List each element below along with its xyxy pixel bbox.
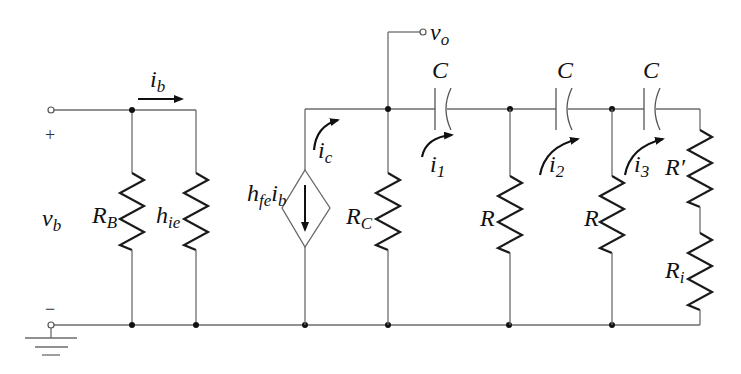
label-rb: RB (92, 203, 117, 231)
label-vb: vb (42, 206, 61, 234)
label-ic: ic (318, 138, 332, 166)
minus-sign: − (45, 300, 55, 318)
label-r1: R (480, 206, 495, 230)
resistor-hie (184, 173, 208, 250)
plus-sign: + (45, 126, 55, 144)
resistor-ri (688, 233, 712, 310)
label-vo: vo (430, 20, 449, 48)
resistor-r-prime (688, 130, 712, 207)
circuit-schematic (0, 0, 741, 374)
resistor-r2 (600, 176, 624, 253)
label-rc: RC (346, 204, 372, 232)
circuit-diagram: + − vb ib RB hie hfeib ic RC vo C C C i1… (0, 0, 741, 374)
input-top-wire (54, 110, 196, 173)
label-ri: Ri (665, 258, 684, 286)
input-terminal-minus (48, 322, 54, 328)
resistor-r1 (498, 176, 522, 253)
label-hie: hie (156, 203, 180, 231)
label-i1: i1 (430, 152, 445, 180)
label-hfe-ib: hfeib (247, 181, 286, 209)
label-r2: R (584, 206, 599, 230)
resistor-rb (120, 173, 144, 250)
label-c1: C (432, 58, 448, 82)
label-i3: i3 (634, 152, 649, 180)
label-i2: i2 (549, 152, 564, 180)
label-ib: ib (150, 67, 165, 95)
label-c3: C (643, 58, 659, 82)
ground-icon (25, 328, 77, 355)
input-terminal-plus (48, 107, 54, 113)
resistor-rc (376, 173, 400, 250)
label-r-prime: R′ (665, 155, 685, 179)
node-dot (129, 107, 135, 113)
output-terminal (420, 29, 426, 35)
label-c2: C (557, 58, 573, 82)
